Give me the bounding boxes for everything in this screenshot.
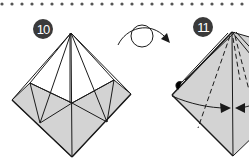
step-10-badge: 10 [33, 19, 53, 39]
step-10-number: 10 [37, 22, 50, 37]
step-11-badge: 11 [193, 17, 213, 37]
origami-diagram: 10 11 [0, 0, 249, 164]
dotted-separator [0, 2, 243, 5]
step-11-model [172, 32, 249, 156]
turn-over-icon [118, 25, 170, 47]
step-11-number: 11 [197, 20, 209, 35]
step-10-model [12, 33, 131, 157]
